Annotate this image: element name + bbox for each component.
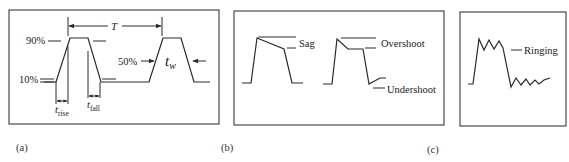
sag-label: Sag [299,38,316,49]
overshoot-undershoot-waveform [323,39,386,84]
level-10-label: 10% [19,74,39,85]
pulse-width-label: tw [165,53,176,71]
ringing-label: Ringing [524,45,559,56]
panel-c-ringing: Ringing (c) [427,12,566,156]
panel-b-caption: (b) [221,142,234,154]
overshoot-label: Overshoot [381,38,425,49]
panel-a-caption: (a) [16,142,28,154]
panel-a-pulse-parameters: 90% 10% trise tfall T 50% tw ( [9,10,219,154]
pulse-characteristics-figure: 90% 10% trise tfall T 50% tw ( [0,0,569,162]
sag-waveform [242,38,303,83]
panel-c-frame [460,12,566,126]
fall-time-label: tfall [87,99,100,113]
period-label: T [111,20,118,32]
level-90-label: 90% [26,35,46,46]
panel-c-caption: (c) [427,144,439,156]
rise-time-label: trise [55,104,69,118]
panel-b-sag-overshoot: Sag Overshoot Undershoot (b) [221,11,444,154]
undershoot-label: Undershoot [387,84,436,95]
level-50-label: 50% [118,56,138,67]
panel-b-frame [234,11,444,125]
